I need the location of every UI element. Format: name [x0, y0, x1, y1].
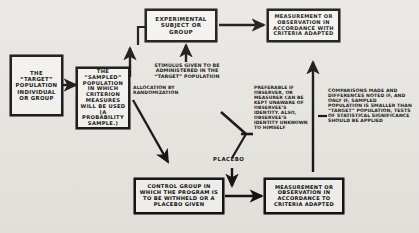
box-sampled-population-label: THE “SAMPLED” POPULATION IN WHICH CRITER… — [80, 69, 126, 127]
box-experimental-group[interactable]: EXPERIMENTAL SUBJECT OR GROUP — [145, 9, 217, 42]
note-blinding: PREFERABLE IF OBSERVER, OR MEASURER CAN … — [254, 86, 311, 130]
box-measurement-top[interactable]: MEASUREMENT OR OBSERVATION IN ACCORDANCE… — [267, 9, 340, 42]
box-experimental-group-label: EXPERIMENTAL SUBJECT OR GROUP — [149, 16, 213, 35]
box-control-group[interactable]: CONTROL GROUP IN WHICH THE PROGRAM IS TO… — [134, 178, 224, 214]
arrow-randomization-to-control — [133, 100, 168, 162]
box-target-population[interactable]: THE “TARGET” POPULATION INDIVIDUAL OR GR… — [10, 55, 63, 116]
box-measurement-bottom-label: MEASUREMENT OR OBSERVATION IN ACCORDANCE… — [268, 185, 340, 208]
label-placebo: PLACEBO — [213, 157, 253, 163]
label-allocation-by-randomization: ALLOCATION BY RANDOMIZATION — [133, 85, 189, 95]
leader-blinding-note-upper — [221, 112, 246, 134]
leader-to-placebo — [232, 134, 246, 158]
diagram-canvas: THE “TARGET” POPULATION INDIVIDUAL OR GR… — [0, 0, 419, 233]
box-measurement-top-label: MEASUREMENT OR OBSERVATION IN ACCORDANCE… — [271, 14, 336, 37]
box-control-group-label: CONTROL GROUP IN WHICH THE PROGRAM IS TO… — [138, 184, 220, 207]
box-measurement-bottom[interactable]: MEASUREMENT OR OBSERVATION IN ACCORDANCE… — [264, 178, 344, 214]
note-comparison: COMPARISONS MADE AND DIFFERENCES NOTED I… — [328, 88, 412, 123]
box-sampled-population[interactable]: THE “SAMPLED” POPULATION IN WHICH CRITER… — [76, 67, 130, 129]
label-stimulus-given: STIMULUS GIVEN TO BE ADMINISTERED IN THE… — [152, 63, 222, 79]
box-target-population-label: THE “TARGET” POPULATION INDIVIDUAL OR GR… — [14, 70, 59, 100]
